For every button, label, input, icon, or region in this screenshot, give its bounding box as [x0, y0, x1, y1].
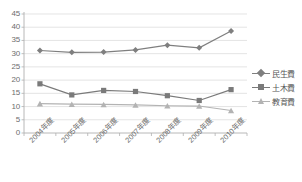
- data-point-marker: [133, 47, 139, 53]
- legend-label: 教育費: [272, 96, 295, 107]
- chart-screenshot: 051015202530354045 2004年度2005年度2006年度200…: [0, 0, 302, 182]
- legend-item-土木費[interactable]: 土木費: [252, 80, 302, 94]
- legend-item-教育費[interactable]: 教育費: [252, 94, 302, 108]
- data-point-marker: [228, 28, 234, 34]
- legend-label: 土木費: [272, 82, 295, 93]
- legend-marker-triangle-icon: [258, 98, 264, 104]
- data-point-marker: [165, 93, 170, 98]
- data-series: [37, 101, 234, 113]
- line-chart: 051015202530354045 2004年度2005年度2006年度200…: [0, 0, 302, 182]
- legend-key-square-icon: [252, 82, 270, 92]
- legend-marker-square-icon: [258, 84, 264, 90]
- legend-marker-diamond-icon: [257, 68, 265, 76]
- data-series: [37, 81, 233, 103]
- data-point-marker: [69, 49, 75, 55]
- legend-item-民生費[interactable]: 民生費: [252, 66, 302, 80]
- data-point-marker: [101, 49, 107, 55]
- data-point-marker: [196, 45, 202, 51]
- legend-key-diamond-icon: [252, 68, 270, 78]
- data-point-marker: [164, 42, 170, 48]
- legend-label: 民生費: [272, 68, 295, 79]
- data-point-marker: [197, 98, 202, 103]
- data-point-marker: [133, 89, 138, 94]
- data-point-marker: [69, 92, 74, 97]
- data-point-marker: [37, 47, 43, 53]
- data-point-marker: [101, 88, 106, 93]
- data-point-marker: [37, 81, 42, 86]
- legend-key-triangle-icon: [252, 96, 270, 106]
- gridlines: [22, 14, 248, 133]
- data-series: [37, 28, 234, 55]
- chart-legend: 民生費土木費教育費: [252, 66, 302, 108]
- data-point-marker: [228, 87, 233, 92]
